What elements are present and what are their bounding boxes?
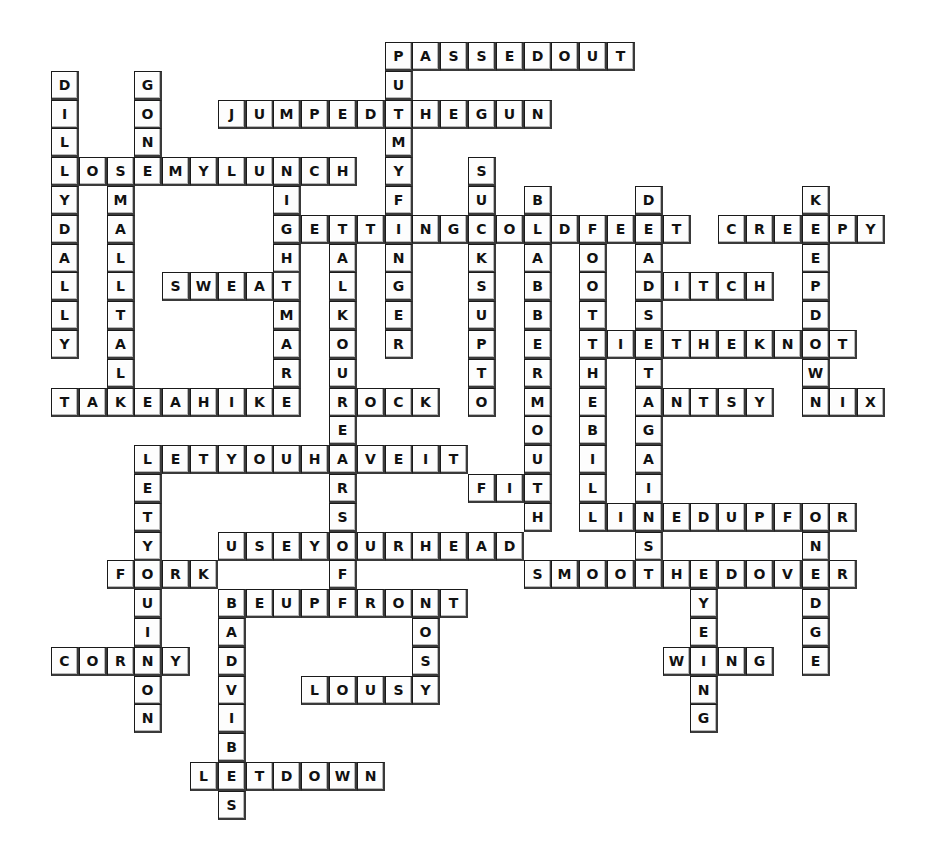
grid-cell[interactable]: U xyxy=(468,301,496,330)
grid-cell[interactable]: B xyxy=(579,416,607,445)
grid-cell[interactable]: P xyxy=(301,100,329,129)
grid-cell[interactable]: E xyxy=(496,42,524,71)
grid-cell[interactable]: F xyxy=(107,560,135,589)
grid-cell[interactable]: P xyxy=(385,42,413,71)
grid-cell[interactable]: E xyxy=(802,244,830,273)
grid-cell[interactable]: R xyxy=(385,330,413,359)
grid-cell[interactable]: C xyxy=(385,388,413,417)
grid-cell[interactable]: U xyxy=(357,532,385,561)
grid-cell[interactable]: I xyxy=(218,704,246,733)
grid-cell[interactable]: L xyxy=(329,272,357,301)
grid-cell[interactable]: I xyxy=(51,100,79,129)
grid-cell[interactable]: S xyxy=(412,647,440,676)
grid-cell[interactable]: S xyxy=(468,157,496,186)
grid-cell[interactable]: G xyxy=(746,647,774,676)
grid-cell[interactable]: O xyxy=(329,676,357,705)
grid-cell[interactable]: A xyxy=(635,445,663,474)
grid-cell[interactable]: T xyxy=(357,215,385,244)
grid-cell[interactable]: M xyxy=(524,388,552,417)
grid-cell[interactable]: B xyxy=(218,733,246,762)
grid-cell[interactable]: B xyxy=(524,301,552,330)
grid-cell[interactable]: L xyxy=(579,474,607,503)
grid-cell[interactable]: G xyxy=(635,416,663,445)
grid-cell[interactable]: D xyxy=(635,186,663,215)
grid-cell[interactable]: S xyxy=(718,388,746,417)
grid-cell[interactable]: E xyxy=(440,100,468,129)
grid-cell[interactable]: K xyxy=(802,186,830,215)
grid-cell[interactable]: U xyxy=(134,589,162,618)
grid-cell[interactable]: U xyxy=(246,100,274,129)
grid-cell[interactable]: R xyxy=(329,388,357,417)
grid-cell[interactable]: T xyxy=(690,388,718,417)
grid-cell[interactable]: T xyxy=(468,359,496,388)
grid-cell[interactable]: O xyxy=(524,416,552,445)
grid-cell[interactable]: E xyxy=(440,532,468,561)
grid-cell[interactable]: C xyxy=(301,157,329,186)
grid-cell[interactable]: N xyxy=(524,100,552,129)
grid-cell[interactable]: L xyxy=(51,272,79,301)
grid-cell[interactable]: M xyxy=(273,100,301,129)
grid-cell[interactable]: A xyxy=(412,42,440,71)
grid-cell[interactable]: S xyxy=(440,42,468,71)
grid-cell[interactable]: E xyxy=(273,532,301,561)
grid-cell[interactable]: O xyxy=(329,330,357,359)
grid-cell[interactable]: R xyxy=(385,532,413,561)
grid-cell[interactable]: O xyxy=(468,388,496,417)
grid-cell[interactable]: G xyxy=(802,618,830,647)
grid-cell[interactable]: A xyxy=(218,618,246,647)
grid-cell[interactable]: Y xyxy=(857,215,885,244)
grid-cell[interactable]: E xyxy=(802,560,830,589)
grid-cell[interactable]: T xyxy=(440,589,468,618)
grid-cell[interactable]: G xyxy=(385,272,413,301)
grid-cell[interactable]: N xyxy=(774,330,802,359)
grid-cell[interactable]: E xyxy=(246,589,274,618)
grid-cell[interactable]: E xyxy=(273,388,301,417)
grid-cell[interactable]: A xyxy=(635,388,663,417)
grid-cell[interactable]: L xyxy=(218,157,246,186)
grid-cell[interactable]: H xyxy=(301,445,329,474)
grid-cell[interactable]: U xyxy=(218,532,246,561)
grid-cell[interactable]: L xyxy=(134,445,162,474)
grid-cell[interactable]: O xyxy=(357,388,385,417)
grid-cell[interactable]: Y xyxy=(385,157,413,186)
grid-cell[interactable]: N xyxy=(663,388,691,417)
grid-cell[interactable]: A xyxy=(468,532,496,561)
grid-cell[interactable]: A xyxy=(524,244,552,273)
grid-cell[interactable]: U xyxy=(579,42,607,71)
grid-cell[interactable]: R xyxy=(829,560,857,589)
grid-cell[interactable]: T xyxy=(663,215,691,244)
grid-cell[interactable]: O xyxy=(134,100,162,129)
grid-cell[interactable]: E xyxy=(162,445,190,474)
grid-cell[interactable]: O xyxy=(746,560,774,589)
grid-cell[interactable]: B xyxy=(218,589,246,618)
grid-cell[interactable]: C xyxy=(468,215,496,244)
grid-cell[interactable]: O xyxy=(579,560,607,589)
grid-cell[interactable]: G xyxy=(273,215,301,244)
grid-cell[interactable]: K xyxy=(412,388,440,417)
grid-cell[interactable]: R xyxy=(273,359,301,388)
grid-cell[interactable]: S xyxy=(385,676,413,705)
grid-cell[interactable]: D xyxy=(718,560,746,589)
grid-cell[interactable]: W xyxy=(190,272,218,301)
grid-cell[interactable]: T xyxy=(635,359,663,388)
grid-cell[interactable]: L xyxy=(51,157,79,186)
grid-cell[interactable]: F xyxy=(385,186,413,215)
grid-cell[interactable]: I xyxy=(385,215,413,244)
grid-cell[interactable]: T xyxy=(329,215,357,244)
grid-cell[interactable]: F xyxy=(329,589,357,618)
grid-cell[interactable]: K xyxy=(746,330,774,359)
grid-cell[interactable]: L xyxy=(301,676,329,705)
grid-cell[interactable]: S xyxy=(635,532,663,561)
grid-cell[interactable]: E xyxy=(301,215,329,244)
grid-cell[interactable]: T xyxy=(107,301,135,330)
grid-cell[interactable]: S xyxy=(468,42,496,71)
grid-cell[interactable]: D xyxy=(690,503,718,532)
grid-cell[interactable]: L xyxy=(107,359,135,388)
grid-cell[interactable]: M xyxy=(107,186,135,215)
grid-cell[interactable]: T xyxy=(829,330,857,359)
grid-cell[interactable]: I xyxy=(663,272,691,301)
grid-cell[interactable]: R xyxy=(357,589,385,618)
grid-cell[interactable]: S xyxy=(246,532,274,561)
grid-cell[interactable]: N xyxy=(690,676,718,705)
grid-cell[interactable]: E xyxy=(774,215,802,244)
